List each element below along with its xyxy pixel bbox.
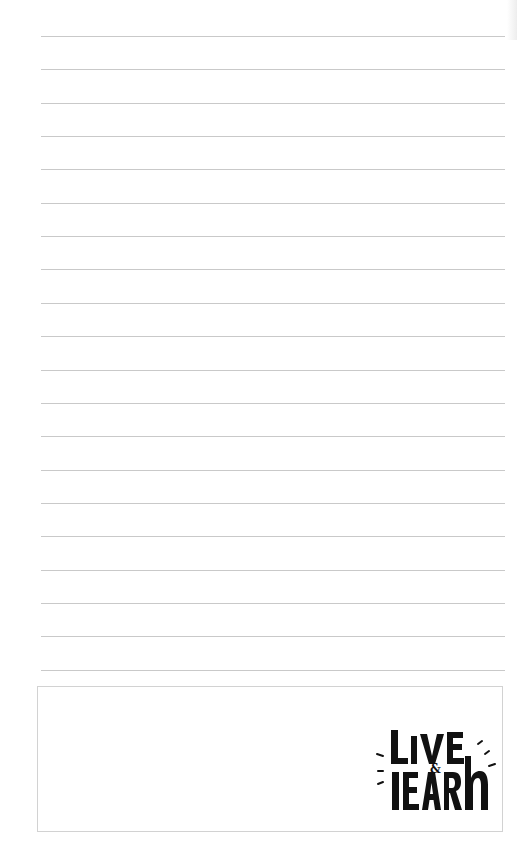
ruled-line — [41, 336, 505, 337]
ruled-line — [41, 403, 505, 404]
svg-text:&: & — [430, 762, 441, 776]
ruled-line — [41, 103, 505, 104]
ruled-line — [41, 36, 505, 37]
ruled-line — [41, 470, 505, 471]
ruled-line — [41, 370, 505, 371]
live-and-learn-logo: & LIVE LEARN — [375, 726, 500, 816]
ruled-line — [41, 603, 505, 604]
ruled-line — [41, 436, 505, 437]
ruled-line — [41, 636, 505, 637]
ruled-line — [41, 203, 505, 204]
ruled-line — [41, 503, 505, 504]
ruled-line — [41, 69, 505, 70]
live-and-learn-logo-icon: & — [375, 726, 500, 816]
ruled-line — [41, 169, 505, 170]
ruled-line — [41, 570, 505, 571]
ruled-line — [41, 536, 505, 537]
ruled-line — [41, 303, 505, 304]
ruled-lines-area[interactable] — [0, 0, 517, 680]
ruled-line — [41, 236, 505, 237]
ruled-line — [41, 269, 505, 270]
ruled-line — [41, 670, 505, 671]
ruled-line — [41, 136, 505, 137]
